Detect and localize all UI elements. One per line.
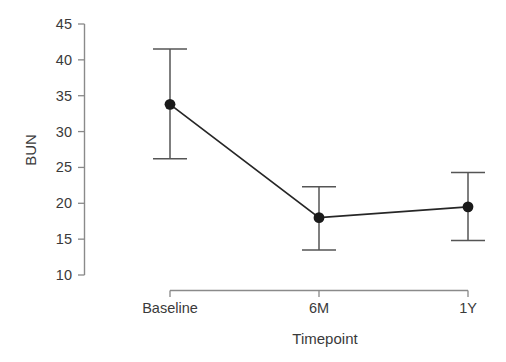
data-point-marker — [314, 212, 325, 223]
x-tick-label: 6M — [309, 300, 329, 316]
y-tick-label: 15 — [40, 231, 72, 247]
x-axis-title: Timepoint — [292, 330, 357, 347]
y-axis-ticks — [78, 24, 85, 275]
y-tick-label: 45 — [40, 16, 72, 32]
y-axis-title: BUN — [22, 134, 39, 166]
data-point-marker — [463, 201, 474, 212]
x-tick-label: 1Y — [459, 300, 477, 316]
chart-figure: 1015202530354045 Baseline6M1Y BUN Timepo… — [0, 0, 506, 362]
y-tick-label: 30 — [40, 124, 72, 140]
x-axis-ticks — [170, 291, 468, 298]
y-tick-label: 10 — [40, 267, 72, 283]
y-tick-label: 25 — [40, 159, 72, 175]
plot-area — [0, 0, 506, 362]
y-tick-label: 40 — [40, 52, 72, 68]
y-tick-label: 20 — [40, 195, 72, 211]
x-tick-label: Baseline — [142, 300, 198, 316]
y-tick-label: 35 — [40, 88, 72, 104]
data-point-marker — [165, 99, 176, 110]
